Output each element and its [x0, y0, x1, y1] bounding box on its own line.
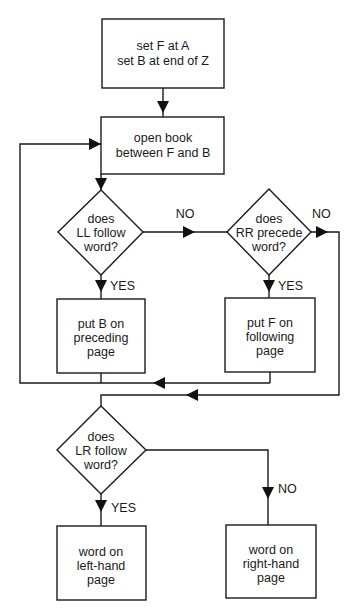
decision-ll-follow: does LL follow word?	[58, 190, 143, 275]
node-text: page	[87, 573, 115, 587]
arrow-down-icon	[95, 178, 107, 190]
decision-rr-precede: does RR precede word?	[227, 189, 311, 275]
label-lr-no: NO	[278, 482, 297, 496]
label-rr-yes: YES	[278, 279, 303, 293]
arrow-right-icon	[316, 226, 328, 238]
node-text: following	[246, 330, 295, 344]
arrow-right-icon	[89, 138, 101, 150]
node-text: put F on	[247, 316, 293, 330]
node-text: RR precede	[236, 226, 303, 240]
node-text: set B at end of Z	[117, 54, 209, 68]
arrow-down-icon	[95, 280, 107, 292]
label-ll-no: NO	[176, 207, 195, 221]
label-lr-yes: YES	[111, 501, 136, 515]
node-left-hand-page: word on left-hand page	[57, 526, 146, 600]
label-ll-yes: YES	[110, 279, 135, 293]
node-put-b: put B on preceding page	[57, 299, 145, 373]
label-rr-no: NO	[312, 207, 331, 221]
node-text: open book	[134, 131, 193, 145]
node-text: LL follow	[77, 226, 127, 240]
node-text: page	[257, 571, 285, 585]
node-text: word on	[78, 545, 124, 559]
node-open-book: open book between F and B	[101, 117, 224, 174]
node-text: does	[87, 212, 114, 226]
arrow-down-icon	[263, 280, 275, 292]
node-text: does	[255, 212, 282, 226]
node-text: preceding	[74, 331, 129, 345]
node-put-f: put F on following page	[225, 298, 315, 372]
arrow-right-icon	[183, 226, 195, 238]
arrow-left-icon	[153, 377, 165, 389]
arrow-left-icon	[186, 389, 198, 401]
node-text: left-hand	[77, 559, 126, 573]
node-text: between F and B	[116, 146, 211, 160]
node-text: does	[87, 430, 114, 444]
arrow-down-icon	[262, 487, 274, 499]
node-text: word on	[248, 543, 294, 557]
node-right-hand-page: word on right-hand page	[226, 525, 316, 598]
arrow-down-icon	[95, 500, 107, 512]
node-text: word?	[251, 240, 286, 254]
arrow-down-icon	[157, 101, 169, 113]
node-text: LR follow	[75, 444, 127, 458]
node-text: word?	[83, 458, 118, 472]
flowchart: set F at A set B at end of Z open book b…	[0, 0, 353, 613]
node-start: set F at A set B at end of Z	[102, 19, 224, 88]
node-text: put B on	[78, 317, 125, 331]
node-text: page	[87, 345, 115, 359]
node-text: word?	[83, 240, 118, 254]
decision-lr-follow: does LR follow word?	[57, 406, 146, 494]
node-text: right-hand	[243, 557, 299, 571]
node-text: set F at A	[137, 39, 190, 53]
node-text: page	[256, 344, 284, 358]
edge-lr-right	[146, 450, 268, 525]
